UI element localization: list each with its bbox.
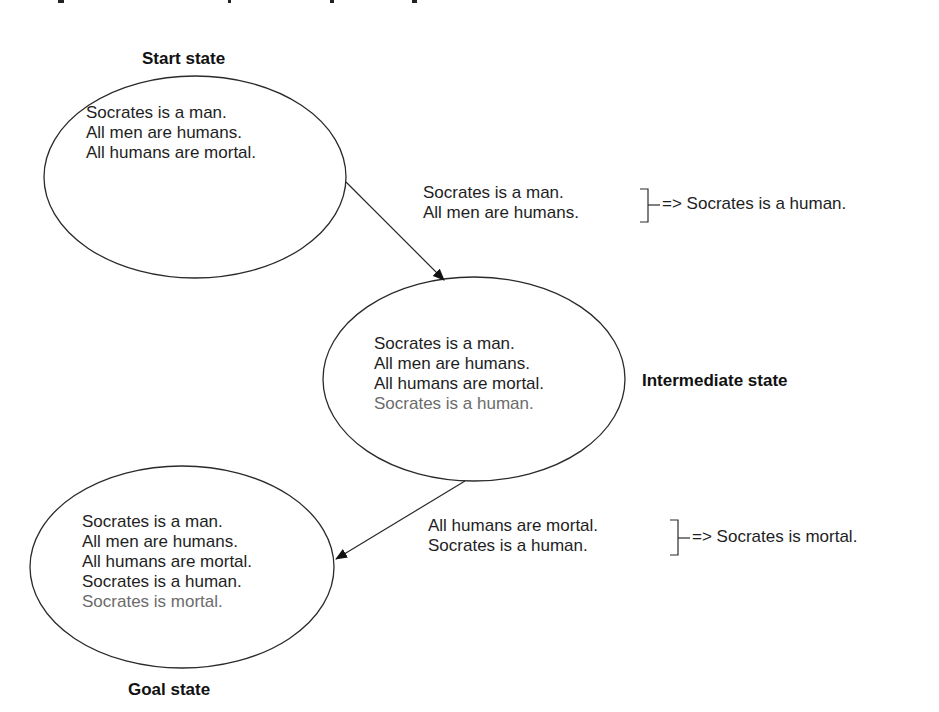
implies-arrow: => — [692, 527, 712, 546]
fact: Socrates is a man. — [374, 334, 544, 354]
fact: All men are humans. — [86, 123, 256, 143]
derived-fact: Socrates is a human. — [374, 394, 544, 414]
start-state-facts: Socrates is a man. All men are humans. A… — [86, 103, 256, 163]
conclusion: Socrates is mortal. — [717, 527, 858, 546]
inference-1-result: => Socrates is a human. — [662, 194, 846, 214]
inference-bracket-1 — [640, 189, 660, 222]
fact: Socrates is a man. — [86, 103, 256, 123]
inference-bracket-2 — [670, 520, 690, 555]
fact: Socrates is a man. — [82, 512, 252, 532]
fact: All humans are mortal. — [86, 143, 256, 163]
premise: Socrates is a man. — [423, 183, 579, 203]
implies-arrow: => — [662, 194, 682, 213]
start-state-label: Start state — [142, 49, 225, 69]
inference-1-premises: Socrates is a man. All men are humans. — [423, 183, 579, 223]
fact: All humans are mortal. — [374, 374, 544, 394]
derived-fact: Socrates is mortal. — [82, 592, 252, 612]
fact: All men are humans. — [374, 354, 544, 374]
goal-state-label: Goal state — [128, 680, 210, 700]
premise: Socrates is a human. — [428, 536, 598, 556]
fact: Socrates is a human. — [82, 572, 252, 592]
fact: All humans are mortal. — [82, 552, 252, 572]
intermediate-state-label: Intermediate state — [642, 371, 788, 391]
inference-2-result: => Socrates is mortal. — [692, 527, 857, 547]
goal-state-facts: Socrates is a man. All men are humans. A… — [82, 512, 252, 612]
conclusion: Socrates is a human. — [687, 194, 847, 213]
premise: All humans are mortal. — [428, 516, 598, 536]
premise: All men are humans. — [423, 203, 579, 223]
intermediate-state-facts: Socrates is a man. All men are humans. A… — [374, 334, 544, 414]
inference-2-premises: All humans are mortal. Socrates is a hum… — [428, 516, 598, 556]
fact: All men are humans. — [82, 532, 252, 552]
